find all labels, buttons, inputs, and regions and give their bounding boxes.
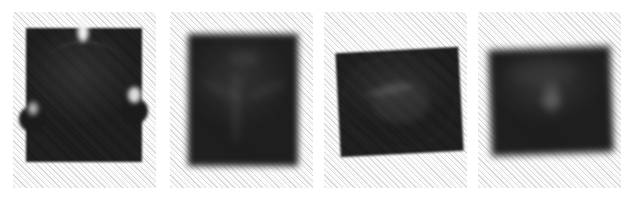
panel-4	[478, 12, 621, 188]
specimen-1-transverse-ridge	[47, 41, 121, 83]
specimen-1-apical-notch	[77, 22, 88, 42]
panel-1	[13, 12, 156, 188]
specimen-3	[335, 47, 463, 157]
specimen-1	[26, 28, 142, 162]
specimen-1-lateral-cleft	[128, 87, 141, 103]
specimen-2-median-ridge	[233, 74, 240, 143]
panel-3	[324, 12, 467, 188]
specimen-2-apex-dent	[228, 50, 261, 66]
panel-2	[170, 12, 313, 188]
specimen-2	[188, 34, 298, 166]
specimen-4-sheen	[488, 46, 614, 156]
specimen-4	[488, 46, 614, 156]
specimen-1-left-cleft	[28, 102, 38, 115]
specimen-plate-figure	[0, 0, 633, 203]
